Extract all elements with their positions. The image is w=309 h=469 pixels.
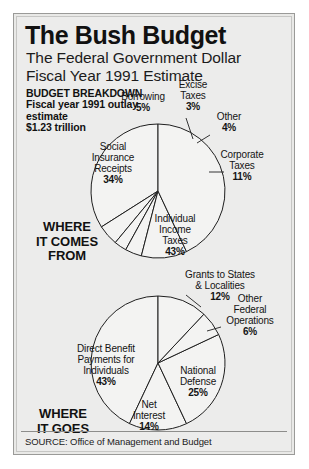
label-social-insurance-receipts-name: SocialInsuranceReceipts — [92, 141, 135, 174]
infographic-card: The Bush Budget The Federal Government D… — [13, 13, 295, 455]
label-corporate-taxes-name: CorporateTaxes — [220, 149, 263, 171]
label-corporate-taxes: CorporateTaxes 11% — [213, 149, 271, 182]
label-direct-benefit-payments-pct: 43% — [96, 376, 116, 387]
label-other-federal-operations: OtherFederalOperations 6% — [219, 293, 281, 337]
label-borrowing-pct: 5% — [136, 102, 150, 113]
label-social-insurance-receipts-pct: 34% — [103, 174, 123, 185]
label-borrowing: Borrowing 5% — [113, 91, 173, 113]
label-net-interest-name: NetInterest — [133, 399, 165, 421]
infographic-inner-frame: The Bush Budget The Federal Government D… — [16, 16, 292, 452]
label-national-defense-name: NationalDefense — [180, 365, 216, 387]
label-excise-taxes: ExciseTaxes 3% — [171, 79, 215, 112]
label-corporate-taxes-pct: 11% — [232, 171, 251, 182]
leader-other — [197, 135, 210, 143]
label-direct-benefit-payments-name: Direct BenefitPayments forIndividuals — [77, 343, 135, 376]
source-divider — [21, 431, 287, 432]
label-other-federal-operations-pct: 6% — [243, 326, 257, 337]
infographic-page: The Bush Budget The Federal Government D… — [0, 0, 309, 469]
breakdown-line-3: $1.23 trillion — [26, 122, 138, 134]
label-other-receipts-pct: 4% — [222, 122, 236, 133]
label-other-receipts-name: Other — [217, 111, 241, 122]
label-social-insurance-receipts: SocialInsuranceReceipts 34% — [77, 141, 149, 185]
label-national-defense: NationalDefense 25% — [167, 365, 229, 398]
label-other-federal-operations-name: OtherFederalOperations — [226, 293, 273, 326]
source-note: SOURCE: Office of Management and Budget — [25, 436, 212, 447]
label-net-interest: NetInterest 14% — [125, 399, 173, 432]
section-heading-where-it-comes-from: WHEREIT COMESFROM — [23, 220, 111, 264]
label-grants-to-states-name: Grants to States& Localities — [185, 269, 255, 291]
page-title: The Bush Budget — [25, 21, 226, 50]
label-national-defense-pct: 25% — [188, 387, 208, 398]
pie-slice-other-federal-operations — [158, 314, 219, 363]
label-excise-taxes-name: ExciseTaxes — [179, 79, 208, 101]
label-individual-income-taxes-pct: 43% — [165, 246, 185, 257]
subtitle-line-1: The Federal Government Dollar — [26, 49, 241, 67]
label-borrowing-name: Borrowing — [121, 91, 165, 102]
label-other-receipts: Other 4% — [209, 111, 249, 133]
leader-excise — [186, 118, 193, 139]
label-excise-taxes-pct: 3% — [186, 101, 200, 112]
label-individual-income-taxes-name: IndividualIncomeTaxes — [155, 213, 196, 246]
label-individual-income-taxes: IndividualIncomeTaxes 43% — [141, 213, 209, 257]
pie-slice-grants-to-states-localities — [158, 296, 204, 363]
label-direct-benefit-payments: Direct BenefitPayments forIndividuals 43… — [63, 343, 149, 387]
